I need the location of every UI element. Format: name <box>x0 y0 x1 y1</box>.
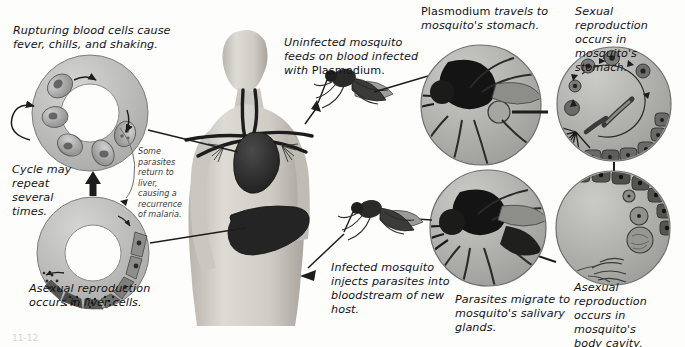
caption-asexual-liver: Asexual reproduction occurs in liver cel… <box>29 282 150 310</box>
caption-uninfected-plasmodium: Plasmodium. <box>312 64 385 77</box>
caption-some-parasites-return: Some parasites return to liver, causing … <box>138 146 182 220</box>
caption-infected-mosquito: Infected mosquito injects parasites into… <box>331 261 450 317</box>
page-mark: 11-12 <box>12 333 38 343</box>
caption-parasites-migrate: Parasites migrate to mosquito's salivary… <box>455 293 570 335</box>
caption-rupturing-blood-cells: Rupturing blood cells cause fever, chill… <box>13 24 171 52</box>
caption-plasmodium-travels: Plasmodium travels to mosquito's stomach… <box>421 5 561 33</box>
caption-uninfected-mosquito: Uninfected mosquitofeeds on blood infect… <box>284 36 434 78</box>
liver-to-blood-arrow <box>85 171 101 196</box>
caption-uninfected-line2: feeds on blood infected <box>284 50 418 63</box>
caption-sexual-reproduction-stomach: Sexual reproduction occurs in mosquito's… <box>575 5 685 76</box>
caption-cycle-may-repeat: Cycle may repeat several times. <box>12 163 71 219</box>
cycle-loop-arrow <box>11 105 34 140</box>
caption-uninfected-line3-italic: with <box>284 64 312 77</box>
caption-uninfected-line1: Uninfected mosquito <box>284 36 402 49</box>
mosquito-stomach <box>488 101 510 123</box>
malaria-life-cycle-figure: Rupturing blood cells cause fever, chill… <box>0 0 685 347</box>
caption-asexual-body-cavity: Asexual reproduction occurs in mosquito'… <box>574 281 685 347</box>
mosquito-to-stomach-arrow <box>374 76 428 92</box>
caption-plasmodium-roman: Plasmodium <box>421 5 490 18</box>
blood-cell-ring-panel <box>32 55 148 171</box>
